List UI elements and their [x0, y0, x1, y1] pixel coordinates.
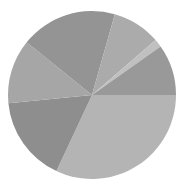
pie-chart	[0, 0, 186, 188]
pie-slices	[8, 11, 176, 179]
